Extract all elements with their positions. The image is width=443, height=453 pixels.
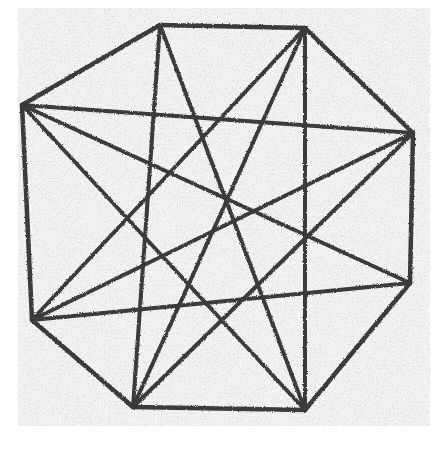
octagon-edge — [133, 407, 305, 410]
octagon-edge — [160, 25, 305, 28]
octagon-star-drawing — [0, 0, 443, 453]
drawing-canvas — [0, 0, 443, 453]
octagon-edge — [410, 133, 413, 283]
